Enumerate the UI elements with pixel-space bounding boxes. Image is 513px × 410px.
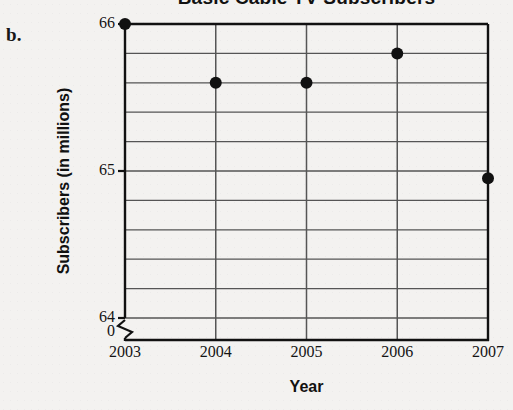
- x-tick-label: 2004: [181, 343, 251, 361]
- vertical-gridlines: [216, 24, 398, 340]
- data-point: [482, 172, 494, 184]
- x-tick-label: 2005: [272, 343, 342, 361]
- data-point: [301, 77, 313, 89]
- y-tick-label-zero: 0: [77, 322, 115, 340]
- data-point: [210, 77, 222, 89]
- data-point: [391, 47, 403, 59]
- data-point: [119, 18, 131, 30]
- x-tick-label: 2003: [90, 343, 160, 361]
- y-tick-label: 66: [77, 14, 115, 32]
- y-axis-break-icon: [118, 320, 132, 338]
- chart-figure: b. Basic Cable TV Subscribers Subscriber…: [0, 0, 513, 410]
- x-tick-label: 2007: [453, 343, 513, 361]
- plot-area: [0, 0, 513, 410]
- y-tick-label: 65: [77, 161, 115, 179]
- x-tick-label: 2006: [362, 343, 432, 361]
